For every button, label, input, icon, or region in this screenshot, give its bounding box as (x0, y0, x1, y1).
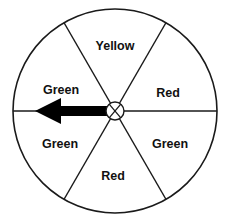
center-hub (106, 102, 124, 120)
sector-label-green-lower-left: Green (42, 137, 78, 151)
sector-label-green-upper-left: Green (43, 83, 79, 97)
sector-label-green-lower-right: Green (152, 137, 188, 151)
sector-label-yellow-top: Yellow (96, 39, 135, 53)
sector-label-red-bottom: Red (101, 169, 125, 183)
spinner-figure: Yellow Red Green Red Green Green (0, 0, 230, 221)
sector-label-red-upper-right: Red (156, 86, 180, 100)
spinner-diagram: Yellow Red Green Red Green Green (0, 0, 230, 221)
